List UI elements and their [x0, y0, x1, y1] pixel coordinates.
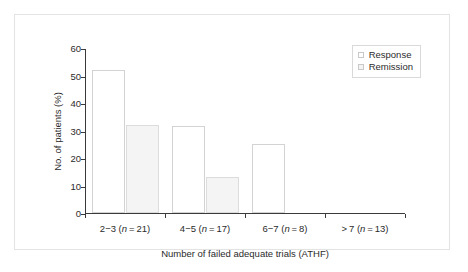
legend-item-response: Response: [358, 49, 413, 61]
x-tick-mark: [85, 214, 86, 218]
bar-remission: [206, 177, 239, 213]
y-tick-label: 20: [70, 152, 81, 165]
x-tick-mark: [165, 214, 166, 218]
bar-response: [92, 70, 125, 213]
bar-response: [172, 126, 205, 213]
y-tick-mark: [81, 49, 85, 50]
x-axis-title: Number of failed adequate trials (ATHF): [85, 248, 405, 259]
x-tick-label: 4−5 (n = 17): [180, 223, 230, 235]
x-tick-mark: [245, 214, 246, 218]
legend: ResponseRemission: [352, 45, 421, 78]
legend-swatch-icon: [358, 64, 364, 70]
x-tick-mark: [405, 214, 406, 218]
y-tick-label: 30: [70, 125, 81, 138]
y-tick-label: 60: [70, 42, 81, 55]
bar-response: [252, 144, 285, 213]
y-tick-mark: [81, 104, 85, 105]
bar-remission: [126, 125, 159, 213]
legend-label: Remission: [369, 61, 413, 73]
figure-frame: No. of patients (%) 0102030405060 2−3 (n…: [14, 14, 450, 250]
legend-label: Response: [369, 49, 412, 61]
figure: No. of patients (%) 0102030405060 2−3 (n…: [0, 0, 468, 272]
y-tick-label: 0: [76, 207, 81, 220]
y-tick-mark: [81, 187, 85, 188]
x-tick-mark: [325, 214, 326, 218]
y-axis-line: [85, 49, 86, 214]
legend-swatch-icon: [358, 52, 364, 58]
x-tick-label: 6−7 (n = 8): [262, 223, 307, 235]
x-tick-label: > 7 (n = 13): [342, 223, 389, 235]
y-tick-label: 10: [70, 180, 81, 193]
x-tick-label: 2−3 (n = 21): [100, 223, 150, 235]
legend-item-remission: Remission: [358, 61, 413, 73]
y-axis-title: No. of patients (%): [51, 49, 65, 214]
y-tick-mark: [81, 159, 85, 160]
y-tick-mark: [81, 77, 85, 78]
y-tick-label: 40: [70, 97, 81, 110]
y-tick-label: 50: [70, 70, 81, 83]
y-tick-mark: [81, 132, 85, 133]
